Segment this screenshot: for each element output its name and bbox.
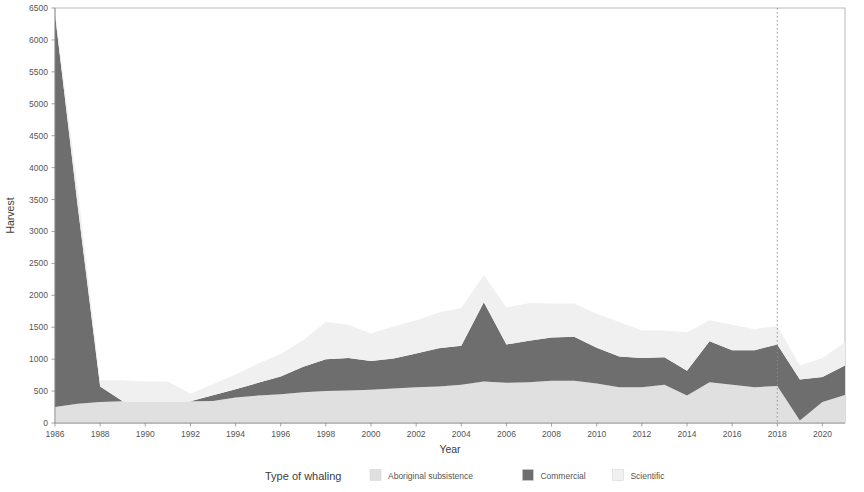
y-tick-label: 1000 <box>29 354 48 364</box>
y-tick-label: 2000 <box>29 290 48 300</box>
y-axis-title: Harvest <box>4 197 16 233</box>
y-axis: 0500100015002000250030003500400045005000… <box>29 3 55 428</box>
x-tick-label: 2000 <box>362 429 381 439</box>
x-tick-label: 2006 <box>497 429 516 439</box>
x-tick-label: 1990 <box>136 429 155 439</box>
y-tick-label: 5000 <box>29 99 48 109</box>
legend-swatch-commercial[interactable] <box>522 470 533 481</box>
x-tick-label: 2008 <box>542 429 561 439</box>
legend-label-aboriginal-subsistence: Aboriginal subsistence <box>388 471 473 481</box>
y-tick-label: 3000 <box>29 226 48 236</box>
x-tick-label: 2016 <box>723 429 742 439</box>
y-tick-label: 4000 <box>29 163 48 173</box>
x-tick-label: 1988 <box>91 429 110 439</box>
legend-label-commercial: Commercial <box>540 471 585 481</box>
whaling-harvest-chart: 1986198819901992199419961998200020022004… <box>0 0 864 492</box>
y-tick-label: 4500 <box>29 131 48 141</box>
y-tick-label: 1500 <box>29 322 48 332</box>
x-tick-label: 2020 <box>813 429 832 439</box>
y-tick-label: 6500 <box>29 3 48 13</box>
x-axis-title: Year <box>439 443 461 455</box>
x-tick-label: 2004 <box>452 429 471 439</box>
legend-label-scientific: Scientific <box>630 471 665 481</box>
chart-canvas: 1986198819901992199419961998200020022004… <box>0 0 864 492</box>
legend-swatch-aboriginal-subsistence[interactable] <box>370 470 381 481</box>
x-tick-label: 2012 <box>632 429 651 439</box>
x-tick-label: 1996 <box>271 429 290 439</box>
x-axis: 1986198819901992199419961998200020022004… <box>46 423 845 439</box>
legend-title: Type of whaling <box>265 470 341 482</box>
y-tick-label: 6000 <box>29 35 48 45</box>
x-tick-label: 2014 <box>678 429 697 439</box>
y-tick-label: 0 <box>43 418 48 428</box>
chart-legend: Type of whalingAboriginal subsistenceCom… <box>265 470 665 483</box>
x-tick-label: 1986 <box>46 429 65 439</box>
x-tick-label: 1998 <box>316 429 335 439</box>
y-tick-label: 2500 <box>29 258 48 268</box>
y-tick-label: 3500 <box>29 195 48 205</box>
y-tick-label: 5500 <box>29 67 48 77</box>
x-tick-label: 2002 <box>407 429 426 439</box>
x-tick-label: 1994 <box>226 429 245 439</box>
legend-swatch-scientific[interactable] <box>612 470 623 481</box>
y-tick-label: 500 <box>34 386 48 396</box>
x-tick-label: 1992 <box>181 429 200 439</box>
x-tick-label: 2018 <box>768 429 787 439</box>
x-tick-label: 2010 <box>587 429 606 439</box>
